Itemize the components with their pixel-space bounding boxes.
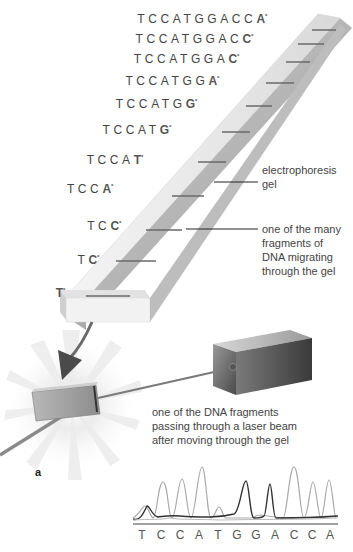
chromatogram-base: C — [151, 528, 171, 542]
label-marker: * — [111, 183, 117, 189]
sequence-label-4: TCCATGGA* — [125, 74, 223, 88]
gel-label: electrophoresis gel — [262, 163, 337, 191]
chromatogram-base: T — [132, 528, 152, 542]
chromatogram-base: C — [302, 528, 322, 542]
chromatogram — [133, 467, 338, 524]
terminal-base: G — [186, 97, 195, 111]
sequence-prefix: TC — [87, 219, 110, 233]
chromatogram-base: A — [189, 528, 209, 542]
sequence-prefix: TCCATGGA — [134, 52, 229, 66]
label-marker: * — [63, 287, 69, 293]
terminal-base: C — [228, 52, 237, 66]
sequence-prefix: TCCA — [87, 153, 134, 167]
laser-label: one of the DNA fragments passing through… — [152, 405, 297, 447]
label-marker: * — [169, 124, 175, 130]
label-marker: * — [141, 154, 147, 160]
panel-letter: a — [35, 466, 41, 478]
label-line: one of the DNA fragments — [152, 405, 297, 419]
sequence-prefix: TCCAT — [103, 123, 160, 137]
sequence-prefix: TCCATGGACC — [137, 12, 256, 26]
label-line: electrophoresis — [262, 163, 337, 177]
sequence-label-7: TCCAT* — [87, 153, 147, 167]
sequence-label-2: TCCATGGACC* — [136, 32, 257, 46]
sequence-label-1: TCCATGGACCA* — [137, 12, 271, 26]
label-line: fragments of — [262, 236, 341, 250]
sequence-prefix: TCCATGG — [125, 74, 208, 88]
laser-source-box — [213, 330, 312, 395]
label-marker: * — [251, 33, 257, 39]
label-line: DNA migrating — [262, 250, 341, 264]
terminal-base: G — [160, 123, 169, 137]
chromatogram-base: C — [170, 528, 190, 542]
terminal-base: C — [88, 253, 97, 267]
sequence-prefix: TCCATG — [116, 97, 186, 111]
terminal-base: A — [102, 182, 111, 196]
sequence-label-9: TCC* — [87, 219, 125, 233]
sequence-label-5: TCCATGG* — [116, 97, 201, 111]
sequence-prefix: T — [77, 253, 88, 267]
terminal-base: T — [56, 286, 63, 300]
label-marker: * — [237, 53, 243, 59]
chromatogram-base: A — [265, 528, 285, 542]
terminal-base: A — [208, 74, 217, 88]
sequence-label-6: TCCATG* — [103, 123, 175, 137]
chromatogram-base: A — [320, 528, 340, 542]
sequence-label-3: TCCATGGAC* — [134, 52, 243, 66]
terminal-base: T — [134, 153, 141, 167]
label-line: after moving through the gel — [152, 433, 297, 447]
label-marker: * — [195, 98, 201, 104]
terminal-base: C — [110, 219, 119, 233]
sequence-label-10: TC* — [77, 253, 103, 267]
sequence-prefix: TCCATGGAC — [136, 32, 243, 46]
label-line: passing through a laser beam — [152, 419, 297, 433]
chromatogram-base: C — [284, 528, 304, 542]
terminal-base: A — [256, 12, 265, 26]
label-marker: * — [217, 75, 223, 81]
label-line: gel — [262, 177, 337, 191]
chromatogram-base: G — [246, 528, 266, 542]
label-marker: * — [97, 254, 103, 260]
sequence-prefix: TCC — [67, 182, 102, 196]
sequence-label-8: TCCA* — [67, 182, 117, 196]
label-line: through the gel — [262, 264, 341, 278]
terminal-base: C — [242, 32, 251, 46]
fragment-label: one of the many fragments of DNA migrati… — [262, 222, 341, 278]
label-line: one of the many — [262, 222, 341, 236]
label-marker: * — [265, 13, 271, 19]
label-marker: * — [119, 220, 125, 226]
sequence-label-11: T* — [56, 286, 69, 300]
chromatogram-base: T — [208, 528, 228, 542]
chromatogram-base: G — [227, 528, 247, 542]
